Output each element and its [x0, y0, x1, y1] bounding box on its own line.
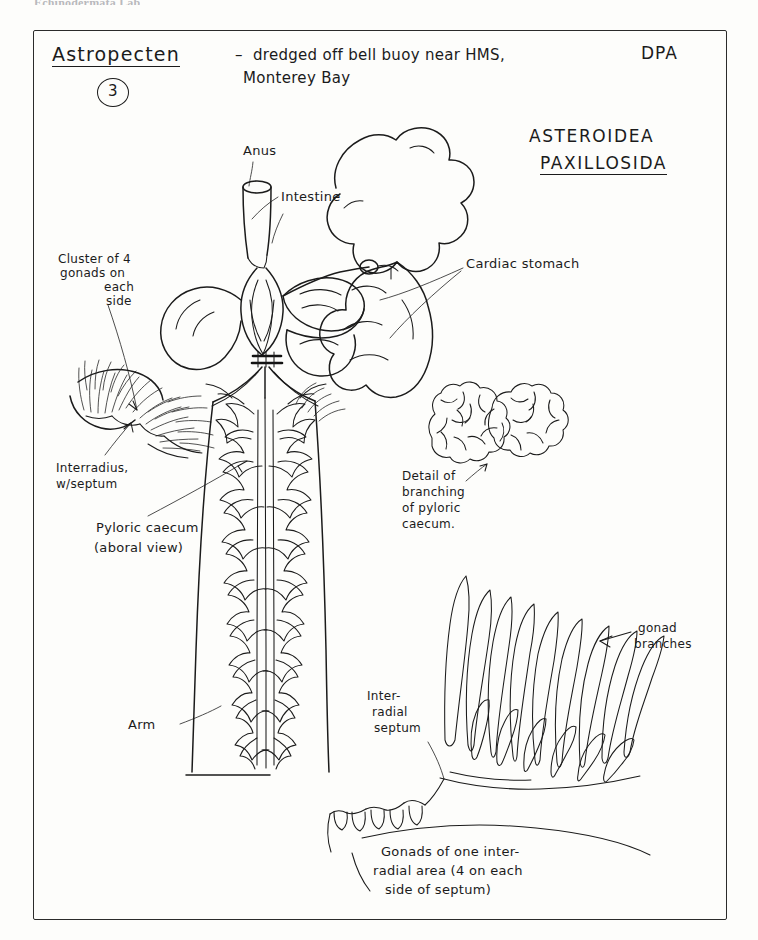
- collection-note-line1: – dredged off bell buoy near HMS,: [235, 47, 505, 64]
- label-pyloric-caecum-line1: Pyloric caecum: [96, 521, 199, 536]
- label-detail-line4: caecum.: [402, 518, 455, 531]
- label-gonad-branches-line2: branches: [634, 638, 692, 651]
- label-gonad-cluster-line2: gonads on: [60, 267, 125, 280]
- label-detail-line1: Detail of: [402, 470, 455, 483]
- label-interradius-line1: Interradius,: [56, 462, 128, 475]
- notebook-page: Echinodermata Lab Astropecten – dredged …: [0, 0, 758, 940]
- label-arm: Arm: [128, 718, 156, 733]
- label-interradial-line1: Inter-: [367, 690, 401, 703]
- label-interradial-line3: septum: [374, 722, 421, 735]
- label-cardiac-stomach: Cardiac stomach: [466, 257, 580, 272]
- label-interradial-line2: radial: [372, 706, 408, 719]
- label-gonad-cluster-line3: each: [104, 281, 134, 294]
- label-anus: Anus: [243, 144, 276, 159]
- label-gonad-cluster-line4: side: [106, 295, 132, 308]
- collection-note-line2: Monterey Bay: [243, 70, 350, 87]
- label-gonad-cluster-line1: Cluster of 4: [58, 253, 131, 266]
- plate-number: 3: [97, 78, 129, 107]
- taxon-class: ASTEROIDEA: [529, 127, 654, 146]
- author-initials: DPA: [641, 44, 678, 63]
- label-interradius-line2: w/septum: [56, 478, 118, 491]
- label-detail-line2: branching: [402, 486, 465, 499]
- caption-line3: side of septum): [385, 883, 491, 898]
- label-intestine: Intestine: [281, 190, 341, 205]
- caption-line1: Gonads of one inter-: [381, 845, 520, 860]
- caption-line2: radial area (4 on each: [373, 864, 523, 879]
- label-pyloric-caecum-line2: (aboral view): [94, 541, 183, 556]
- taxon-order: PAXILLOSIDA: [540, 154, 667, 175]
- label-gonad-branches-line1: gonad: [638, 622, 677, 635]
- specimen-name: Astropecten: [52, 44, 180, 67]
- label-detail-line3: of pyloric: [402, 502, 461, 515]
- running-header: Echinodermata Lab: [34, 0, 140, 5]
